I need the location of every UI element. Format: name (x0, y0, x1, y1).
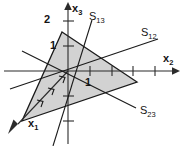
x2-axis-label: x2 (163, 53, 173, 67)
x3-axis-label: x3 (72, 3, 82, 17)
x1-axis-label: x1 (28, 118, 38, 132)
x3-tick-label-2: 2 (44, 14, 50, 25)
geometry-diagram: x1 x2 x3 2 1 1 S13 S12 S23 (0, 0, 182, 146)
plane-label-s13: S13 (89, 11, 105, 25)
x2-tick-label-1: 1 (85, 77, 91, 88)
shaded-triangle-region (22, 32, 137, 121)
plane-label-s12: S12 (141, 27, 157, 41)
plane-label-s23: S23 (140, 105, 156, 119)
x3-tick-label-1: 1 (50, 40, 56, 51)
x1-arrow-icon (8, 120, 18, 135)
x2-arrow-icon (172, 67, 180, 75)
x3-arrow-icon (64, 2, 72, 10)
